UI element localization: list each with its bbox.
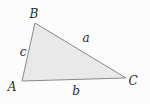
- triangle-diagram: B C A a b c: [0, 0, 150, 104]
- side-label-b: b: [72, 84, 80, 98]
- side-label-a: a: [82, 31, 89, 45]
- triangle-shape: [22, 23, 126, 81]
- side-label-c: c: [20, 45, 27, 59]
- vertex-label-c: C: [128, 74, 137, 88]
- vertex-label-b: B: [29, 7, 39, 21]
- geometry-figure: B C A a b c: [0, 0, 150, 104]
- vertex-label-a: A: [7, 80, 17, 94]
